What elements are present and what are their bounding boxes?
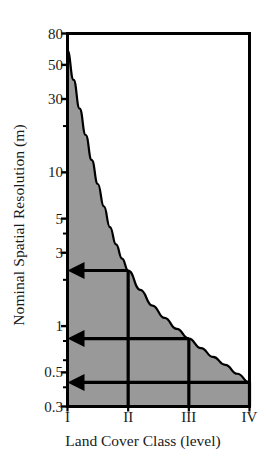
y-tick-label-1: 1 (29, 319, 63, 334)
x-axis-tick-labels: IIIIIIIV (0, 410, 266, 432)
y-tick-label-80: 80 (29, 26, 63, 41)
y-tick-label-50: 50 (29, 57, 63, 72)
y-axis-tick-labels: 805030105310.50.3 (29, 0, 63, 465)
y-tick-label-3: 3 (29, 245, 63, 260)
y-tick-label-0-5: 0.5 (29, 365, 63, 380)
area-fill-region (68, 51, 250, 407)
x-axis-title: Land Cover Class (level) (30, 432, 256, 450)
x-tick-label-i: I (65, 410, 70, 425)
x-tick-label-iii: III (181, 410, 196, 425)
y-tick-label-5: 5 (29, 211, 63, 226)
x-tick-label-ii: II (123, 410, 133, 425)
y-tick-label-10: 10 (29, 165, 63, 180)
chart-figure: Nominal Spatial Resolution (m) 805030105… (0, 0, 266, 465)
y-tick-label-30: 30 (29, 91, 63, 106)
x-tick-label-iv: IV (242, 410, 258, 425)
